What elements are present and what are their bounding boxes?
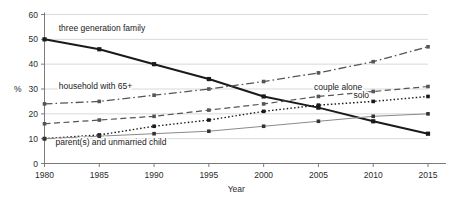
data-point-marker (43, 102, 47, 106)
series-label-solo: solo (353, 90, 369, 100)
data-point-marker (207, 108, 211, 112)
data-point-marker (152, 115, 156, 119)
data-point-marker (426, 95, 430, 99)
data-point-marker (262, 124, 266, 128)
data-point-marker (371, 119, 375, 123)
series-label-household-with-65-: household with 65+ (59, 81, 133, 91)
y-tick-label: 0 (33, 159, 38, 169)
x-tick-label: 1990 (145, 170, 164, 180)
series-label-three-generation-family: three generation family (59, 23, 146, 33)
line-chart: 0102030405060 19801985199019952000200520… (0, 0, 462, 197)
data-point-marker (97, 118, 101, 122)
series-line-3 (45, 96, 429, 138)
x-axis-title: Year (228, 184, 245, 194)
x-axis-tick-labels: 19801985199019952000200520102015 (35, 170, 438, 180)
y-tick-label: 10 (29, 134, 39, 144)
x-tick-label: 1995 (199, 170, 218, 180)
data-point-marker (317, 71, 321, 75)
data-point-marker (207, 118, 211, 122)
y-tick-label: 30 (29, 84, 39, 94)
data-point-marker (97, 47, 101, 51)
data-point-marker (262, 80, 266, 84)
data-point-marker (262, 110, 266, 114)
x-tick-label: 2015 (419, 170, 438, 180)
data-point-marker (152, 93, 156, 97)
chart-canvas: 0102030405060 19801985199019952000200520… (0, 0, 462, 197)
data-point-marker (43, 122, 47, 126)
data-point-marker (426, 112, 430, 116)
y-tick-label: 50 (29, 34, 39, 44)
y-tick-label: 60 (29, 10, 39, 20)
data-point-marker (207, 77, 211, 81)
data-point-marker (371, 60, 375, 64)
data-point-marker (317, 95, 321, 99)
data-point-marker (97, 100, 101, 104)
x-tick-label: 1985 (90, 170, 109, 180)
y-axis-tick-labels: 0102030405060 (29, 10, 39, 169)
data-point-marker (371, 100, 375, 104)
series-label-parent-s-and-unmarried-child: parent(s) and unmarried child (55, 137, 166, 147)
data-point-marker (43, 137, 47, 141)
data-point-marker (426, 132, 430, 136)
data-point-marker (371, 115, 375, 119)
data-point-marker (317, 119, 321, 123)
data-point-marker (152, 132, 156, 136)
data-point-marker (262, 102, 266, 106)
series-line-1 (45, 47, 429, 104)
data-point-marker (426, 45, 430, 49)
data-point-marker (426, 85, 430, 89)
x-tick-label: 2010 (364, 170, 383, 180)
data-point-marker (42, 37, 46, 41)
data-point-marker (152, 124, 156, 128)
data-point-marker (152, 62, 156, 66)
series-labels: three generation familythree generation … (55, 23, 369, 147)
data-point-marker (207, 87, 211, 91)
series-line-4 (45, 114, 429, 139)
y-tick-label: 40 (29, 59, 39, 69)
x-tick-label: 2000 (254, 170, 273, 180)
series-line-2 (45, 87, 429, 124)
data-point-marker (207, 129, 211, 133)
data-point-marker (262, 94, 266, 98)
y-axis-title: % (14, 84, 22, 94)
data-point-marker (371, 90, 375, 94)
x-tick-label: 2005 (309, 170, 328, 180)
x-tick-label: 1980 (35, 170, 54, 180)
data-point-marker (317, 103, 321, 107)
y-tick-label: 20 (29, 109, 39, 119)
